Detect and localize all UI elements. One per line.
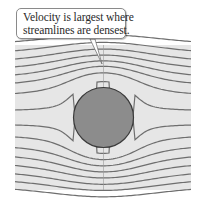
callout-box: Velocity is largest where streamlines ar…	[16, 8, 126, 39]
cylinder-obstacle	[74, 88, 134, 148]
callout-line-2: streamlines are densest.	[23, 24, 121, 37]
callout-line-1: Velocity is largest where	[23, 11, 121, 24]
